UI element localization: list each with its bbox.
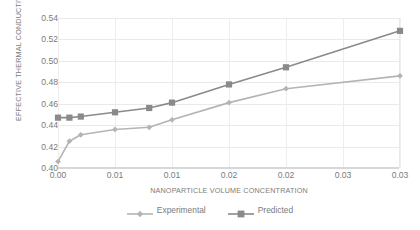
data-point-square (78, 113, 84, 119)
plot-area (58, 18, 400, 168)
data-point-square (226, 81, 232, 87)
data-point-diamond (112, 127, 118, 133)
x-axis-tick-label: 0.03 (335, 170, 352, 180)
data-point-square (112, 109, 118, 115)
x-axis-tick-labels: 0.000.010.010.020.020.030.03 (58, 170, 400, 184)
legend-key-diamond-icon (127, 205, 153, 215)
data-point-diamond (226, 100, 232, 106)
x-axis-tick-label: 0.02 (221, 170, 238, 180)
y-axis-tick-label: 0.42 (41, 142, 58, 152)
x-axis-tick-label: 0.03 (392, 170, 409, 180)
y-gridline (58, 168, 399, 169)
data-point-square (397, 28, 403, 34)
legend-item-predicted[interactable]: Predicted (228, 205, 293, 215)
x-axis-tick-label: 0.01 (107, 170, 124, 180)
data-point-square (66, 115, 72, 121)
data-point-diamond (397, 73, 403, 79)
data-point-square (55, 115, 61, 121)
legend-label: Predicted (258, 205, 293, 215)
data-point-square (283, 64, 289, 70)
series-predicted (55, 28, 403, 121)
data-point-square (169, 100, 175, 106)
x-axis-title: NANOPARTICLE VOLUME CONCENTRATION (58, 186, 400, 195)
legend-item-experimental[interactable]: Experimental (127, 205, 206, 215)
y-axis-tick-label: 0.52 (41, 34, 58, 44)
x-axis-tick-label: 0.00 (50, 170, 67, 180)
x-gridline (400, 18, 401, 168)
y-axis-tick-label: 0.50 (41, 56, 58, 66)
data-point-diamond (146, 124, 152, 130)
y-axis-tick-labels: 0.400.420.440.460.480.500.520.54 (28, 0, 58, 230)
y-axis-tick-label: 0.44 (41, 120, 58, 130)
chart-legend: ExperimentalPredicted (0, 205, 420, 215)
series-line (58, 76, 400, 162)
data-point-diamond (283, 86, 289, 92)
series-layer (58, 18, 400, 168)
y-axis-tick-label: 0.46 (41, 99, 58, 109)
data-point-square (146, 105, 152, 111)
thermal-conductivity-line-chart: EFFECTIVE THERMAL CONDUCTIVITY 0.400.420… (0, 0, 420, 230)
y-axis-tick-label: 0.54 (41, 13, 58, 23)
y-axis-title: EFFECTIVE THERMAL CONDUCTIVITY (14, 0, 23, 133)
data-point-diamond (169, 117, 175, 123)
x-axis-tick-label: 0.01 (164, 170, 181, 180)
legend-label: Experimental (157, 205, 206, 215)
legend-key-square-icon (228, 205, 254, 215)
y-axis-tick-label: 0.48 (41, 77, 58, 87)
x-axis-tick-label: 0.02 (278, 170, 295, 180)
